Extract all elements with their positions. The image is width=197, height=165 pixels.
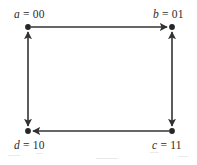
node-d [25,128,31,134]
node-a [25,24,31,30]
node-b-value: 01 [172,8,184,20]
node-b [169,24,175,30]
node-a-equals: = [20,8,33,20]
node-c-value: 11 [170,139,181,151]
state-transition-diagram: a = 00 b = 01 d = 10 c = 11 [0,0,197,165]
node-d-label: d = 10 [14,139,45,151]
node-b-label: b = 01 [153,8,184,20]
node-b-equals: = [159,8,172,20]
node-d-equals: = [20,139,33,151]
node-d-value: 10 [33,139,45,151]
node-a-label: a = 00 [14,8,45,20]
node-a-value: 00 [33,8,45,20]
node-c [169,128,175,134]
node-c-equals: = [157,139,170,151]
node-c-label: c = 11 [152,139,182,151]
